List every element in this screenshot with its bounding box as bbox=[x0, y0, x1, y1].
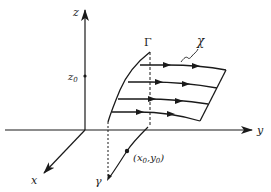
z0-tick bbox=[83, 74, 86, 77]
diagram-canvas: z z0 y x Γ χ γ (x0,y0) bbox=[0, 0, 271, 192]
y-axis-label: y bbox=[256, 124, 264, 137]
point-label: (x0,y0) bbox=[133, 152, 164, 165]
characteristics-diagram: z z0 y x Γ χ γ (x0,y0) bbox=[0, 0, 271, 192]
surface-right-edge bbox=[200, 70, 226, 121]
projection-label: γ bbox=[95, 175, 102, 188]
flow-arrow-icon bbox=[155, 79, 163, 85]
characteristic-curve-1 bbox=[140, 65, 226, 70]
characteristic-curve-2 bbox=[128, 82, 217, 88]
flow-arrow-icon bbox=[163, 62, 171, 68]
initial-curve-label: Γ bbox=[144, 36, 152, 49]
flow-arrow-icon bbox=[136, 109, 144, 115]
flow-arrow-icon bbox=[192, 63, 200, 69]
z0-label: z0 bbox=[67, 71, 78, 84]
flow-arrow-icon bbox=[167, 111, 175, 117]
flow-arrow-icon bbox=[148, 96, 156, 102]
flow-arrow-icon bbox=[182, 81, 190, 87]
characteristic-label: χ bbox=[196, 34, 205, 48]
characteristic-curve-3 bbox=[118, 99, 208, 104]
z-axis-label: z bbox=[72, 6, 79, 19]
x-axis-label: x bbox=[31, 174, 38, 187]
point-x0-y0 bbox=[125, 149, 129, 153]
chi-pointer-squiggle bbox=[181, 49, 198, 62]
flow-arrow-icon bbox=[175, 98, 183, 104]
x-axis bbox=[44, 130, 85, 173]
characteristic-curve-4 bbox=[112, 112, 200, 121]
